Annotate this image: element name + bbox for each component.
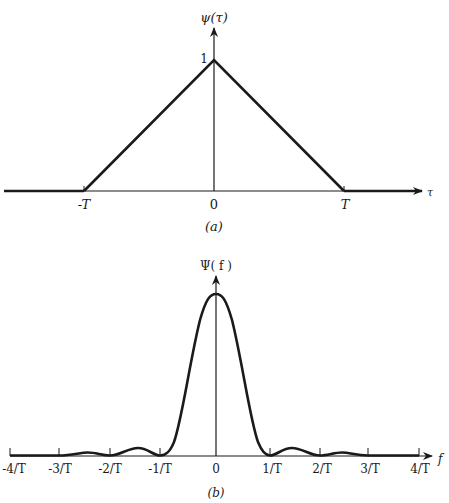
tau-label: τ <box>427 186 434 199</box>
tick-label-minus-2-T: -2/T <box>98 462 122 476</box>
tick-label-minus-T: -T <box>78 197 92 212</box>
tick-label-T: T <box>341 197 351 212</box>
psi-tau-label: ψ(τ) <box>200 10 228 25</box>
figure-b: Ψ( f ) f -4/T -3/T -2/T -1/T 0 1/T 2/T 3… <box>2 259 445 500</box>
tick-label-1-T: 1/T <box>262 462 282 476</box>
f-label: f <box>437 452 445 466</box>
tick-label-minus-1-T: -1/T <box>148 462 172 476</box>
tick-label-zero-b: 0 <box>212 462 220 476</box>
caption-a: (a) <box>205 219 223 234</box>
figure-canvas: ψ(τ) 1 τ -T 0 T (a) Ψ( f ) f -4/T -3 <box>0 0 449 503</box>
caption-b: (b) <box>207 486 224 500</box>
tick-label-4-T: 4/T <box>410 462 430 476</box>
tick-label-zero: 0 <box>210 197 218 212</box>
peak-one-label: 1 <box>200 52 208 66</box>
Psi-f-label: Ψ( f ) <box>200 259 232 273</box>
tick-label-minus-3-T: -3/T <box>48 462 72 476</box>
tick-label-2-T: 2/T <box>312 462 332 476</box>
tick-label-minus-4-T: -4/T <box>2 462 26 476</box>
sinc-squared-curve <box>10 294 419 456</box>
f-tick-labels: -4/T -3/T -2/T -1/T 0 1/T 2/T 3/T 4/T <box>2 462 430 476</box>
tick-label-3-T: 3/T <box>360 462 380 476</box>
figure-a: ψ(τ) 1 τ -T 0 T (a) <box>4 10 434 234</box>
